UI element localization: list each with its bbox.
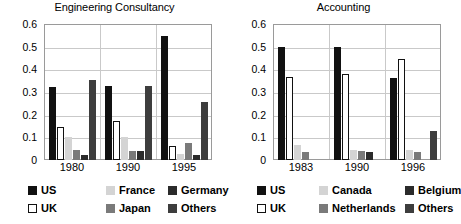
bar: [193, 155, 200, 160]
bar: [350, 150, 357, 160]
legend-item-others[interactable]: Others: [405, 202, 453, 214]
bar: [390, 78, 397, 160]
y-axis-tick-label: 0.5: [251, 41, 266, 53]
legend-item-us[interactable]: US: [28, 184, 56, 196]
legend-label: US: [41, 184, 56, 196]
legend-item-others[interactable]: Others: [168, 202, 216, 214]
legend-item-canada[interactable]: Canada: [319, 184, 372, 196]
bar: [430, 131, 437, 160]
bar: [169, 146, 176, 160]
legend-item-netherlands[interactable]: Netherlands: [319, 202, 396, 214]
legend-row: UKJapanOthers: [28, 199, 229, 217]
legend-label: Germany: [181, 184, 229, 196]
plot-area: [273, 24, 441, 160]
legend-item-belgium[interactable]: Belgium: [405, 184, 461, 196]
bar: [137, 151, 144, 160]
bar: [406, 150, 413, 160]
legend-label: Canada: [332, 184, 372, 196]
bar: [294, 145, 301, 160]
legend-label: UK: [270, 202, 286, 214]
y-axis-tick-label: 0: [260, 154, 266, 166]
bar: [89, 80, 96, 160]
y-axis-tick-label: 0.6: [251, 18, 266, 30]
y-axis-tick-label: 0.2: [251, 109, 266, 121]
bar: [121, 137, 128, 160]
bar: [161, 36, 168, 160]
legend-label: Others: [181, 202, 216, 214]
legend-swatch-icon: [106, 204, 115, 213]
chart-panel-engineering-consultancy: Engineering Consultancy 00.10.20.30.40.5…: [0, 0, 229, 224]
legend-row: UKNetherlandsOthers: [257, 199, 458, 217]
y-axis-labels: 00.10.20.30.40.50.6: [229, 24, 269, 160]
bar: [129, 151, 136, 160]
legend-swatch-icon: [106, 186, 115, 195]
bar: [65, 137, 72, 160]
bar: [414, 152, 421, 160]
legend-label: Netherlands: [332, 202, 396, 214]
x-axis-tick-label: 1983: [273, 161, 329, 173]
bar-group: [385, 24, 441, 160]
legend-item-germany[interactable]: Germany: [168, 184, 229, 196]
bar: [73, 150, 80, 160]
legend-swatch-icon: [28, 204, 37, 213]
legend-label: Others: [418, 202, 453, 214]
legend-swatch-icon: [319, 186, 328, 195]
bar-group: [273, 24, 329, 160]
legend-label: Belgium: [418, 184, 461, 196]
y-axis-labels: 00.10.20.30.40.50.6: [0, 24, 40, 160]
bar: [81, 155, 88, 160]
legend-label: Japan: [119, 202, 151, 214]
bar-group: [156, 24, 212, 160]
bar: [49, 87, 56, 160]
bar: [342, 74, 349, 160]
x-axis-tick-label: 1980: [44, 161, 100, 173]
bar: [201, 102, 208, 160]
y-axis-tick-label: 0: [31, 154, 37, 166]
chart-title: Engineering Consultancy: [0, 1, 229, 13]
x-axis-tick-label: 1996: [385, 161, 441, 173]
bar: [398, 59, 405, 160]
chart-legend: USCanadaBelgiumUKNetherlandsOthers: [257, 181, 458, 217]
legend-item-uk[interactable]: UK: [28, 202, 57, 214]
legend-item-us[interactable]: US: [257, 184, 285, 196]
bar: [358, 151, 365, 160]
chart-legend: USFranceGermanyUKJapanOthers: [28, 181, 229, 217]
legend-label: UK: [41, 202, 57, 214]
legend-row: USFranceGermany: [28, 181, 229, 199]
legend-item-uk[interactable]: UK: [257, 202, 286, 214]
bar: [57, 127, 64, 160]
y-axis-tick-label: 0.4: [251, 63, 266, 75]
bar-group: [329, 24, 385, 160]
bar: [105, 86, 112, 160]
bar: [334, 47, 341, 160]
legend-swatch-icon: [405, 204, 414, 213]
legend-label: US: [270, 184, 285, 196]
y-axis-tick-label: 0.2: [22, 109, 37, 121]
x-axis-labels: 198019901995: [44, 161, 212, 173]
legend-swatch-icon: [168, 204, 177, 213]
bar: [278, 47, 285, 160]
bar: [302, 152, 309, 160]
bar-groups: [44, 24, 212, 160]
x-axis-tick-label: 1990: [329, 161, 385, 173]
bar-group: [44, 24, 100, 160]
legend-item-japan[interactable]: Japan: [106, 202, 151, 214]
y-axis-tick-label: 0.6: [22, 18, 37, 30]
bar-groups: [273, 24, 441, 160]
bar: [185, 143, 192, 160]
y-axis-tick-label: 0.1: [22, 131, 37, 143]
legend-swatch-icon: [257, 204, 266, 213]
legend-swatch-icon: [405, 186, 414, 195]
legend-item-france[interactable]: France: [106, 184, 155, 196]
legend-swatch-icon: [257, 186, 266, 195]
legend-row: USCanadaBelgium: [257, 181, 458, 199]
legend-swatch-icon: [168, 186, 177, 195]
plot-area: [44, 24, 212, 160]
y-axis-tick-label: 0.3: [251, 86, 266, 98]
bar: [177, 154, 184, 160]
y-axis-tick-label: 0.4: [22, 63, 37, 75]
chart-title: Accounting: [229, 1, 458, 13]
x-axis-tick-label: 1995: [156, 161, 212, 173]
chart-panel-accounting: Accounting 00.10.20.30.40.50.6 198319901…: [229, 0, 458, 224]
